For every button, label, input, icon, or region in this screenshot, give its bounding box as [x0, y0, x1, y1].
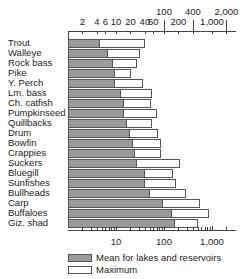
bottom-minor-tick [178, 227, 179, 230]
bottom-minor-tick [105, 227, 106, 230]
bottom-minor-tick [198, 227, 199, 230]
bottom-minor-tick [102, 227, 103, 230]
top-tick-label: 2,000 [215, 7, 239, 17]
bottom-major-tick [116, 226, 117, 230]
top-tick [193, 20, 194, 34]
bottom-minor-tick [145, 227, 146, 230]
bottom-minor-tick [153, 227, 154, 230]
bottom-major-tick [164, 226, 165, 230]
bar-mean [68, 49, 108, 58]
top-tick-label: 100 [156, 7, 172, 17]
bar-mean [68, 39, 100, 48]
bar-mean [68, 129, 130, 138]
bottom-tick-label: 100 [156, 237, 172, 247]
bar-mean [68, 59, 113, 68]
top-tick-label: 6 [103, 17, 108, 27]
bar-mean [68, 99, 124, 108]
bottom-minor-tick [139, 227, 140, 230]
bar-mean [68, 69, 115, 78]
bottom-minor-tick [201, 227, 202, 230]
top-tick [153, 31, 154, 34]
bar-mean [68, 149, 135, 158]
bottom-minor-tick [109, 227, 110, 230]
bar-mean [68, 189, 150, 198]
bottom-minor-tick [159, 227, 160, 230]
bottom-minor-tick [205, 227, 206, 230]
bottom-minor-tick [157, 227, 158, 230]
legend-label-maximum: Maximum [96, 265, 137, 275]
bottom-axis-line [68, 230, 236, 231]
bottom-minor-tick [150, 227, 151, 230]
top-tick [145, 31, 146, 34]
bar-mean [68, 79, 115, 88]
top-tick [130, 31, 131, 34]
bottom-tick-label: 10 [111, 237, 122, 247]
bottom-minor-tick [207, 227, 208, 230]
top-tick [164, 20, 165, 34]
top-tick-label: 4 [94, 17, 99, 27]
category-label: Giz. shad [8, 218, 48, 228]
bottom-tick-label: 1,000 [200, 237, 224, 247]
bottom-minor-tick [114, 227, 115, 230]
top-tick-label: 60 [148, 17, 159, 27]
bottom-minor-tick [82, 227, 83, 230]
top-tick-label: 200 [171, 17, 187, 27]
top-tick [97, 31, 98, 34]
top-tick-label: 10 [111, 17, 122, 27]
bar-mean [68, 169, 145, 178]
bar-mean [68, 109, 124, 118]
bottom-minor-tick [130, 227, 131, 230]
bar-mean [68, 199, 163, 208]
bar-mean [68, 119, 127, 128]
legend-swatch-mean [68, 254, 92, 262]
bottom-minor-tick [162, 227, 163, 230]
bar-mean [68, 179, 145, 188]
top-tick-label: 1,000 [200, 17, 224, 27]
bar-mean [68, 209, 172, 218]
bottom-minor-tick [97, 227, 98, 230]
legend-swatch-maximum [68, 266, 92, 274]
bottom-major-tick [212, 226, 213, 230]
top-axis-line [68, 31, 236, 32]
top-tick-label: 20 [125, 17, 136, 27]
bottom-minor-tick [193, 227, 194, 230]
bottom-minor-tick [111, 227, 112, 230]
bar-mean [68, 89, 121, 98]
bottom-minor-tick [210, 227, 211, 230]
top-tick [105, 31, 106, 34]
top-tick [82, 31, 83, 34]
bottom-minor-tick [91, 227, 92, 230]
bottom-minor-tick [226, 227, 227, 230]
legend-label-mean: Mean for lakes and reservoirs [96, 253, 221, 263]
top-tick-label: 400 [185, 7, 201, 17]
top-tick [226, 20, 227, 34]
bar-mean [68, 159, 137, 168]
top-tick [178, 31, 179, 34]
top-tick [116, 31, 117, 34]
top-tick [212, 31, 213, 34]
bottom-minor-tick [187, 227, 188, 230]
top-tick-label: 2 [80, 17, 85, 27]
fish-standing-crop-chart: 246102040602001,0001004002,000TroutWalle… [0, 0, 245, 279]
bar-mean [68, 139, 133, 148]
